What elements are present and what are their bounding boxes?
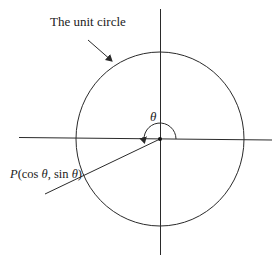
theta-label: θ <box>150 109 157 124</box>
x-axis <box>19 138 272 141</box>
point-p-open: (cos <box>18 167 42 181</box>
point-p-close: ) <box>78 167 82 181</box>
point-p-mid: , sin <box>48 167 72 181</box>
point-p-prefix: P <box>9 167 18 181</box>
origin-point <box>158 137 162 141</box>
unit-circle-label: The unit circle <box>50 14 126 29</box>
point-p-label: P(cos θ, sin θ) <box>9 167 82 181</box>
unit-circle-diagram: The unit circle θ P(cos θ, sin θ) <box>0 0 279 262</box>
label-pointer-arrow <box>88 40 112 61</box>
